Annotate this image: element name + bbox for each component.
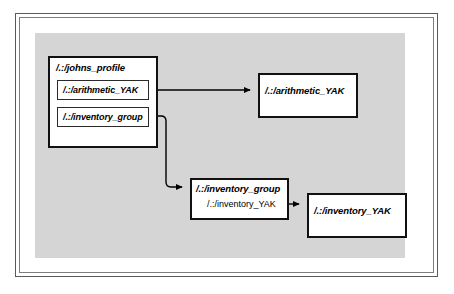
node-inventory-group-entry-label: /.:/inventory_YAK [207,199,276,209]
diagram-canvas: /.:/johns_profile /.:/arithmetic_YAK /.:… [0,0,454,294]
node-inventory-group-label: /.:/inventory_group [196,183,280,194]
node-inventory-yak-label: /.:/inventory_YAK [314,205,391,216]
node-johns-profile-child-inventory-label: /.:/inventory_group [63,112,143,122]
node-johns-profile-child-arithmetic-label: /.:/arithmetic_YAK [63,85,138,95]
node-johns-profile-label: /.:/johns_profile [56,62,125,73]
node-arithmetic-yak-label: /.:/arithmetic_YAK [265,85,344,96]
